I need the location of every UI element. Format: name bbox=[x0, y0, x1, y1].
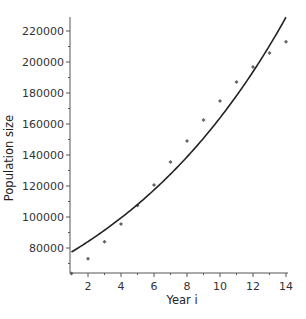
y-axis-label: Population size bbox=[2, 115, 16, 201]
x-axis: 2468101214 bbox=[70, 273, 293, 293]
data-point bbox=[169, 160, 173, 164]
y-tick-label: 160000 bbox=[22, 118, 64, 131]
data-point bbox=[152, 183, 156, 187]
data-point bbox=[86, 257, 90, 261]
y-tick-label: 220000 bbox=[22, 25, 64, 38]
y-tick-label: 80000 bbox=[29, 242, 64, 255]
x-tick-label: 2 bbox=[85, 280, 92, 293]
y-tick-label: 180000 bbox=[22, 87, 64, 100]
data-point bbox=[284, 40, 288, 44]
x-tick-label: 10 bbox=[213, 280, 227, 293]
data-point bbox=[202, 118, 206, 122]
y-tick-label: 140000 bbox=[22, 149, 64, 162]
x-axis-label: Year i bbox=[165, 293, 197, 307]
data-point bbox=[268, 51, 272, 55]
x-tick-label: 12 bbox=[246, 280, 260, 293]
plot-area bbox=[70, 17, 289, 275]
x-tick-label: 6 bbox=[151, 280, 158, 293]
x-tick-label: 4 bbox=[118, 280, 125, 293]
x-tick-label: 8 bbox=[184, 280, 191, 293]
y-tick-label: 200000 bbox=[22, 56, 64, 69]
data-point bbox=[119, 222, 123, 226]
y-tick-label: 120000 bbox=[22, 180, 64, 193]
data-point bbox=[218, 99, 222, 103]
exponential-fit-line bbox=[72, 17, 287, 252]
y-axis: 8000010000012000014000016000018000020000… bbox=[22, 17, 70, 273]
y-tick-label: 100000 bbox=[22, 211, 64, 224]
x-tick-label: 14 bbox=[279, 280, 293, 293]
data-point bbox=[185, 139, 189, 143]
data-point bbox=[235, 80, 239, 84]
data-point bbox=[103, 240, 107, 244]
population-chart: 8000010000012000014000016000018000020000… bbox=[0, 0, 306, 319]
